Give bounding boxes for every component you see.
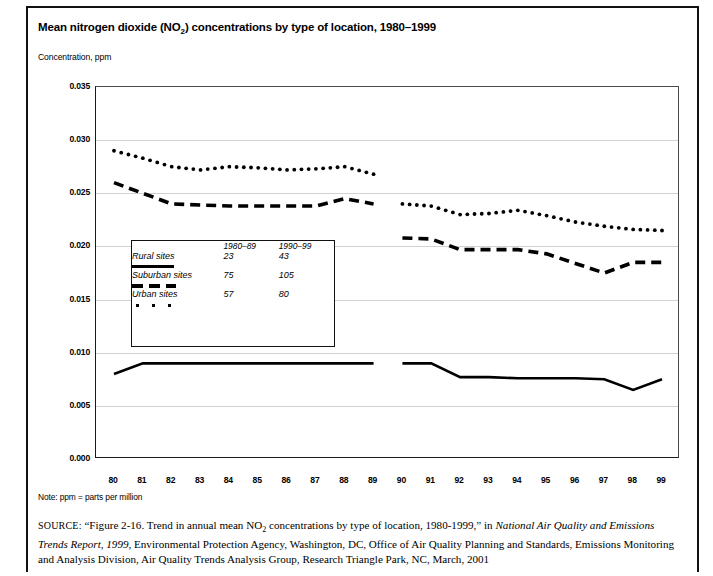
legend-series-label: Suburban sites <box>132 270 223 280</box>
legend-swatch-spacer <box>223 261 334 270</box>
legend-row: Rural sites2343 <box>132 251 334 261</box>
series-dashed-suburban <box>114 183 374 206</box>
legend-site-count: 75 <box>223 270 278 280</box>
legend-swatch-cell <box>132 261 223 270</box>
y-tick-label: 0.030 <box>30 134 90 144</box>
legend-row: Suburban sites75105 <box>132 270 334 280</box>
figure-page: Mean nitrogen dioxide (NO2) concentratio… <box>0 0 713 576</box>
source-citation: SOURCE: “Figure 2-16. Trend in annual me… <box>38 518 678 566</box>
page-title: Mean nitrogen dioxide (NO2) concentratio… <box>38 21 436 36</box>
y-tick-label: 0.015 <box>30 294 90 304</box>
x-tick-label: 89 <box>360 475 386 485</box>
x-tick-label: 93 <box>475 475 501 485</box>
y-tick-label: 0.005 <box>30 400 90 410</box>
x-tick-label: 90 <box>388 475 414 485</box>
legend-header-row: 1980–891990–99 <box>132 241 334 251</box>
x-tick-label: 88 <box>331 475 357 485</box>
title-suffix: ) concentrations by type of location, 19… <box>185 21 436 33</box>
x-tick-label: 95 <box>533 475 559 485</box>
y-tick-label: 0.035 <box>30 81 90 91</box>
x-tick-label: 83 <box>187 475 213 485</box>
x-tick-label: 80 <box>100 475 126 485</box>
footnote: Note: ppm = parts per million <box>38 492 142 502</box>
series-dotted-urban <box>401 202 664 232</box>
x-tick-label: 86 <box>273 475 299 485</box>
y-tick-label: 0.020 <box>30 240 90 250</box>
x-tick-label: 87 <box>302 475 328 485</box>
legend-column-header: 1990–99 <box>279 241 334 251</box>
series-dotted-urban <box>112 149 375 176</box>
legend-swatch-cell <box>132 299 223 308</box>
x-tick-label: 96 <box>561 475 587 485</box>
legend-corner-cell <box>132 241 223 251</box>
legend-row: Urban sites5780 <box>132 289 334 299</box>
x-tick-label: 91 <box>417 475 443 485</box>
legend-table: 1980–891990–99Rural sites2343Suburban si… <box>132 241 334 308</box>
series-solid-rural <box>114 363 374 374</box>
source-text: “Figure 2-16. Trend in annual mean NO2 c… <box>38 519 674 565</box>
legend-swatch-row <box>132 261 334 270</box>
legend-swatch-spacer <box>223 280 334 289</box>
legend-swatch-dashed-icon <box>132 284 176 288</box>
legend-swatch-dotted-icon <box>136 304 180 307</box>
x-tick-label: 97 <box>590 475 616 485</box>
legend-swatch-row <box>132 299 334 308</box>
x-tick-label: 92 <box>446 475 472 485</box>
legend-box: 1980–891990–99Rural sites2343Suburban si… <box>131 240 335 347</box>
y-tick-label: 0.025 <box>30 187 90 197</box>
legend-site-count: 43 <box>279 251 334 261</box>
series-solid-rural <box>402 363 662 390</box>
x-tick-label: 99 <box>648 475 674 485</box>
legend-series-label: Urban sites <box>132 289 223 299</box>
legend-series-label: Rural sites <box>132 251 223 261</box>
legend-site-count: 23 <box>223 251 278 261</box>
legend-site-count: 105 <box>279 270 334 280</box>
source-label: SOURCE: <box>38 520 82 531</box>
x-tick-label: 82 <box>158 475 184 485</box>
y-axis-caption: Concentration, ppm <box>38 52 111 62</box>
series-dashed-suburban <box>402 238 662 273</box>
x-tick-label: 84 <box>215 475 241 485</box>
x-tick-label: 81 <box>129 475 155 485</box>
x-tick-label: 98 <box>619 475 645 485</box>
legend-site-count: 57 <box>223 289 278 299</box>
y-tick-label: 0.010 <box>30 347 90 357</box>
title-prefix: Mean nitrogen dioxide (NO <box>38 21 181 33</box>
x-tick-label: 85 <box>244 475 270 485</box>
legend-swatch-cell <box>132 280 223 289</box>
y-tick-label: 0.000 <box>30 453 90 463</box>
legend-swatch-spacer <box>223 299 334 308</box>
legend-swatch-solid-icon <box>132 265 174 268</box>
x-tick-label: 94 <box>504 475 530 485</box>
legend-swatch-row <box>132 280 334 289</box>
legend-site-count: 80 <box>279 289 334 299</box>
legend-column-header: 1980–89 <box>223 241 278 251</box>
